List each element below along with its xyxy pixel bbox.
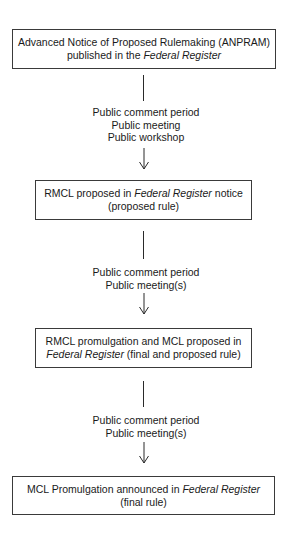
- step-rmcl-proposed-box: RMCL proposed in Federal Register notice…: [35, 180, 252, 220]
- arrow-down-icon: [138, 442, 150, 464]
- connector-line-3: [143, 381, 144, 407]
- step-rmcl-proposed-line1: RMCL proposed in Federal Register notice: [44, 187, 243, 200]
- transition-3-text: Public comment period Public meeting(s): [0, 414, 292, 439]
- transition-1-text: Public comment period Public meeting Pub…: [0, 106, 292, 144]
- arrow-down-icon: [138, 293, 150, 315]
- arrow-down-icon: [138, 148, 150, 170]
- transition-2-text: Public comment period Public meeting(s): [0, 266, 292, 291]
- step-rmcl-promulgation-line1: RMCL promulgation and MCL proposed in: [46, 335, 242, 348]
- step-mcl-promulgation-box: MCL Promulgation announced in Federal Re…: [12, 476, 275, 515]
- connector-line-2: [143, 231, 144, 259]
- step-anpram-box: Advanced Notice of Proposed Rulemaking (…: [12, 29, 276, 69]
- step-mcl-promulgation-line1: MCL Promulgation announced in Federal Re…: [27, 483, 260, 496]
- step-mcl-promulgation-line2: (final rule): [120, 496, 167, 509]
- connector-line-1: [143, 75, 144, 101]
- step-rmcl-proposed-line2: (proposed rule): [108, 200, 179, 213]
- step-rmcl-promulgation-line2: Federal Register (final and proposed rul…: [46, 348, 240, 361]
- step-anpram-line1: Advanced Notice of Proposed Rulemaking (…: [18, 36, 270, 49]
- step-anpram-line2: published in the Federal Register: [67, 49, 221, 62]
- step-rmcl-promulgation-box: RMCL promulgation and MCL proposed in Fe…: [35, 328, 252, 368]
